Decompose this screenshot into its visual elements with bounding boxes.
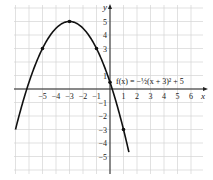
x-tick-label: 4 bbox=[162, 92, 166, 101]
x-tick-label: −3 bbox=[65, 92, 74, 101]
y-tick-label: 5 bbox=[103, 18, 107, 27]
data-point bbox=[95, 47, 99, 51]
data-point bbox=[108, 80, 112, 84]
y-tick-label: −2 bbox=[98, 112, 107, 121]
y-tick-label: −5 bbox=[98, 153, 107, 162]
function-label: f(x) = −½(x + 3)² + 5 bbox=[116, 77, 184, 86]
x-axis-label: x bbox=[200, 91, 205, 101]
function-graph: −5−4−3−2−1123456−5−4−3−2−11345 x y f(x) … bbox=[0, 0, 213, 180]
y-axis-label: y bbox=[102, 2, 107, 12]
axes bbox=[14, 4, 208, 174]
y-tick-label: −4 bbox=[98, 139, 107, 148]
x-tick-label: 3 bbox=[149, 92, 153, 101]
parabola-curve bbox=[16, 22, 129, 153]
data-point bbox=[41, 47, 45, 51]
y-tick-label: 3 bbox=[103, 45, 107, 54]
data-point bbox=[122, 128, 126, 132]
y-tick-label: −3 bbox=[98, 126, 107, 135]
x-tick-label: 6 bbox=[189, 92, 193, 101]
x-tick-label: 1 bbox=[122, 92, 126, 101]
x-tick-label: −5 bbox=[38, 92, 47, 101]
x-tick-label: −2 bbox=[79, 92, 88, 101]
y-tick-label: 4 bbox=[103, 31, 107, 40]
x-tick-label: 2 bbox=[135, 92, 139, 101]
x-tick-label: −4 bbox=[52, 92, 61, 101]
y-tick-label: −1 bbox=[98, 99, 107, 108]
x-tick-label: 5 bbox=[176, 92, 180, 101]
data-point bbox=[68, 20, 72, 24]
